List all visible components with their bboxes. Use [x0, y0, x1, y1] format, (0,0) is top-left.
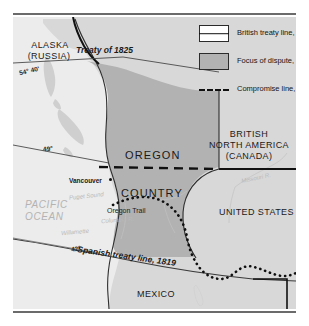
label-oregon-country: COUNTRY — [121, 187, 183, 199]
label-pacific-ocean-line2: OCEAN — [25, 211, 64, 222]
legend-item-compromise-line: Compromise line, 1846 — [199, 81, 296, 98]
legend-swatch-british-treaty-line — [199, 25, 229, 42]
label-mexico: MEXICO — [137, 289, 175, 299]
label-oregon-trail: Oregon Trail — [107, 207, 146, 214]
label-bna-line3: (CANADA) — [209, 151, 289, 161]
bottom-rule — [13, 311, 296, 313]
city-marker-vancouver — [109, 178, 112, 181]
map-plate: ALASKA (RUSSIA) 54° 40' Treaty of 1825 4… — [13, 17, 296, 309]
legend-label-compromise-line: Compromise line, 1846 — [237, 85, 296, 93]
label-bna-line1: BRITISH — [209, 129, 289, 139]
map-legend: British treaty line, 1818 Focus of dispu… — [199, 25, 296, 109]
legend-item-british-treaty-line: British treaty line, 1818 — [199, 25, 296, 42]
label-pacific-ocean-line1: PACIFIC — [25, 199, 68, 210]
map-figure: ALASKA (RUSSIA) 54° 40' Treaty of 1825 4… — [0, 0, 309, 326]
label-united-states: UNITED STATES — [219, 207, 294, 217]
label-treaty-1825: Treaty of 1825 — [76, 45, 133, 55]
label-bna-line2: NORTH AMERICA — [201, 140, 296, 150]
label-city-vancouver: Vancouver — [69, 177, 102, 184]
legend-swatch-compromise-line — [199, 81, 229, 98]
label-alaska-russia: (RUSSIA) — [17, 51, 81, 61]
legend-item-focus-of-dispute: Focus of dispute, 1846 — [199, 53, 296, 70]
legend-label-british-treaty-line: British treaty line, 1818 — [237, 29, 296, 37]
label-oregon: OREGON — [125, 149, 181, 161]
label-latitude-49: 49° — [43, 144, 54, 152]
legend-swatch-focus-of-dispute — [199, 53, 229, 70]
legend-label-focus-of-dispute: Focus of dispute, 1846 — [237, 57, 296, 65]
label-alaska: ALASKA — [19, 40, 81, 50]
top-rule — [13, 13, 296, 15]
